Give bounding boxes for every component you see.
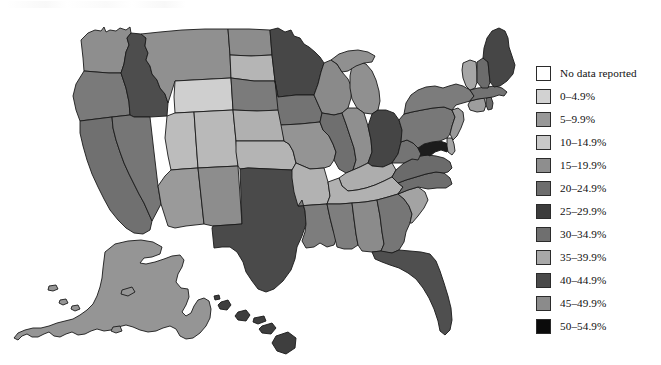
legend-item-label: No data reported [560,68,637,79]
legend-item[interactable]: 35–39.9% [536,246,661,269]
state-VT[interactable] [462,60,477,90]
legend-swatch-icon [536,319,551,334]
legend-item-label: 35–39.9% [560,252,606,263]
states-layer [14,27,515,354]
state-FL[interactable] [372,250,452,335]
legend-swatch-icon [536,296,551,311]
state-OR[interactable] [73,71,130,121]
legend-swatch-icon [536,158,551,173]
legend-item-label: 25–29.9% [560,206,606,217]
legend-item-label: 45–49.9% [560,298,606,309]
legend-item[interactable]: 25–29.9% [536,200,661,223]
state-AK-island-5[interactable] [111,326,122,333]
state-SD[interactable] [230,55,275,81]
state-UT[interactable] [165,112,198,170]
legend-item[interactable]: 5–9.9% [536,108,661,131]
legend-item[interactable]: No data reported [536,62,661,85]
legend-item-label: 30–34.9% [560,229,606,240]
state-OK[interactable] [236,141,296,170]
legend-item[interactable]: 20–24.9% [536,177,661,200]
legend-swatch-icon [536,181,551,196]
legend-item-label: 10–14.9% [560,137,606,148]
legend-swatch-icon [536,112,551,127]
legend-item-label: 50–54.9% [560,321,606,332]
legend-swatch-icon [536,227,551,242]
state-AK[interactable] [14,240,211,340]
state-HI-oahu[interactable] [235,310,250,321]
legend: No data reported 0–4.9% 5–9.9% 10–14.9% … [536,62,661,338]
legend-item-label: 0–4.9% [560,91,595,102]
legend-item[interactable]: 50–54.9% [536,315,661,338]
legend-item[interactable]: 0–4.9% [536,85,661,108]
state-DE[interactable] [447,138,455,155]
legend-swatch-icon [536,89,551,104]
legend-swatch-icon [536,204,551,219]
state-NM[interactable] [198,166,242,226]
state-AZ[interactable] [158,168,204,228]
legend-swatch-icon [536,66,551,81]
state-AK-island-2[interactable] [59,299,68,305]
legend-item-label: 20–24.9% [560,183,606,194]
state-CO[interactable] [194,110,238,168]
us-map-svg [0,0,525,365]
state-HI-tiny[interactable] [214,295,220,300]
legend-swatch-icon [536,250,551,265]
state-HI-kauai[interactable] [218,300,231,310]
legend-item[interactable]: 30–34.9% [536,223,661,246]
legend-swatch-icon [536,135,551,150]
state-HI-maui[interactable] [259,323,276,334]
legend-item[interactable]: 10–14.9% [536,131,661,154]
state-AK-island-3[interactable] [71,305,80,311]
legend-item[interactable]: 45–49.9% [536,292,661,315]
legend-item-label: 5–9.9% [560,114,595,125]
state-HI-bigisland[interactable] [272,332,296,354]
legend-swatch-icon [536,273,551,288]
state-AK-island-1[interactable] [48,285,58,291]
state-NE[interactable] [231,78,281,111]
state-MI[interactable] [350,62,380,114]
state-MN[interactable] [270,28,324,97]
legend-item[interactable]: 15–19.9% [536,154,661,177]
state-AR[interactable] [292,163,330,206]
state-HI-molokai[interactable] [253,316,266,324]
state-ND[interactable] [228,29,272,56]
state-KS[interactable] [233,110,284,141]
legend-item[interactable]: 40–44.9% [536,269,661,292]
choropleth-figure: No data reported 0–4.9% 5–9.9% 10–14.9% … [0,0,661,365]
us-map [0,0,525,365]
legend-item-label: 15–19.9% [560,160,606,171]
state-WY[interactable] [174,78,233,113]
legend-item-label: 40–44.9% [560,275,606,286]
state-RI[interactable] [486,97,493,110]
